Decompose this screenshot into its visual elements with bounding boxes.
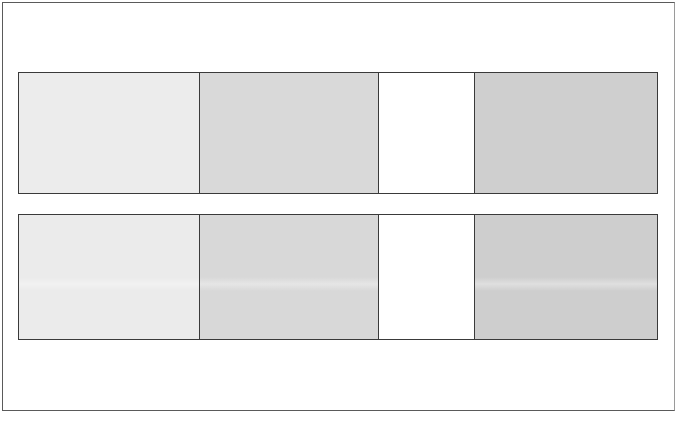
- figure-frame: [2, 2, 675, 411]
- gray-swatch: [200, 215, 378, 339]
- gray-swatch: [379, 73, 475, 193]
- gray-swatch: [475, 73, 657, 193]
- gray-swatch: [200, 73, 378, 193]
- gray-swatch: [19, 73, 200, 193]
- swatch-row-top: [18, 72, 658, 194]
- gray-swatch: [379, 215, 475, 339]
- swatch-row-bottom: [18, 214, 658, 340]
- gray-swatch: [475, 215, 657, 339]
- gray-swatch: [19, 215, 200, 339]
